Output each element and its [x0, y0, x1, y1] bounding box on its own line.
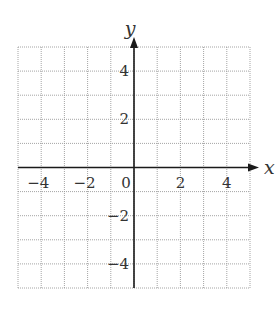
coordinate-plane: −4−202442−2−4 x y — [0, 0, 278, 309]
x-tick-label: 4 — [222, 174, 232, 192]
x-tick-label: −4 — [27, 174, 49, 192]
axes — [18, 37, 259, 288]
x-tick-label: 0 — [121, 174, 131, 192]
y-tick-label: −2 — [107, 207, 129, 225]
x-tick-label: 2 — [176, 174, 186, 192]
y-tick-label: 2 — [119, 110, 129, 128]
x-tick-label: −2 — [74, 174, 96, 192]
x-axis-arrow-icon — [248, 164, 259, 172]
y-tick-label: −4 — [107, 255, 129, 273]
y-axis-label: y — [124, 17, 136, 39]
x-axis-label: x — [264, 156, 275, 178]
y-tick-label: 4 — [119, 62, 129, 80]
